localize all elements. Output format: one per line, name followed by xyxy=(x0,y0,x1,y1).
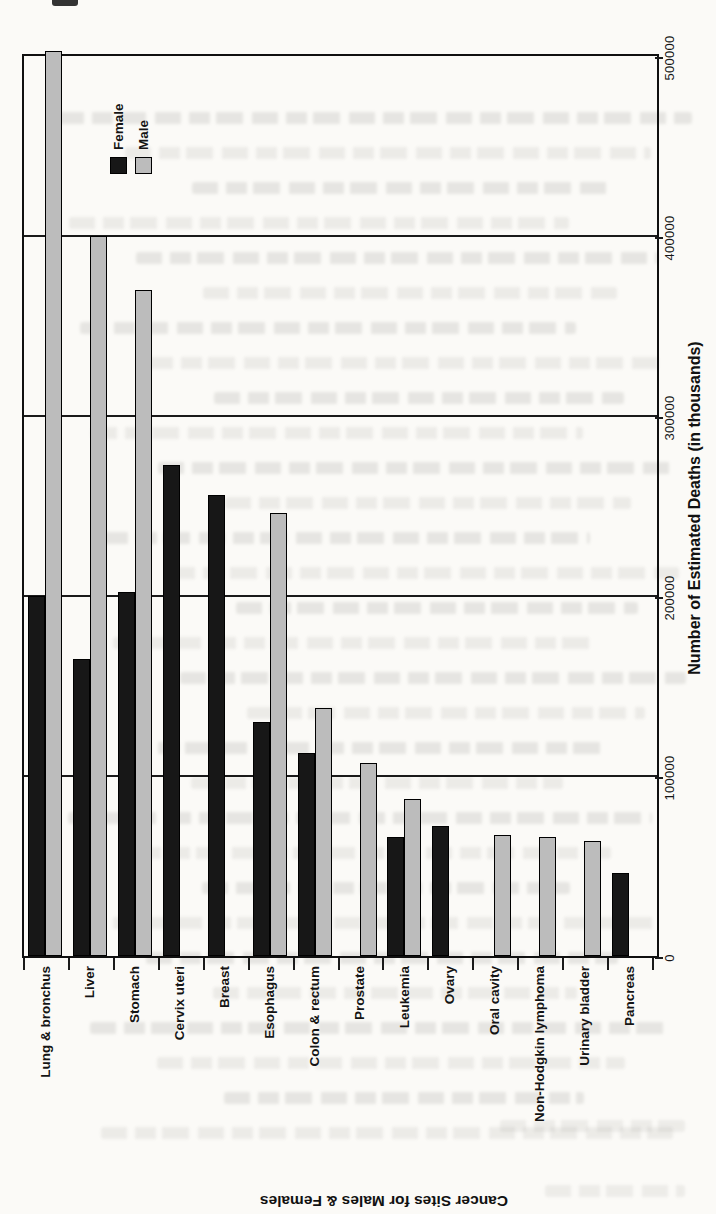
value-tick-label-200000: 200000 xyxy=(662,556,677,640)
category-label-oral-cavity: Oral cavity xyxy=(487,966,502,1142)
category-label-pancreas: Pancreas xyxy=(622,966,637,1142)
category-label-ovary: Ovary xyxy=(442,966,457,1142)
legend-item-male: Male xyxy=(135,103,152,174)
bar-non-hodgkin-lymphoma-male xyxy=(539,837,556,956)
category-label-urinary-bladder: Urinary bladder xyxy=(577,966,592,1142)
category-tick xyxy=(293,958,295,970)
bar-liver-male xyxy=(90,236,107,956)
value-tick-label-100000: 100000 xyxy=(662,736,677,820)
bar-urinary-bladder-male xyxy=(584,841,601,956)
male-swatch-icon xyxy=(135,157,152,174)
category-tick xyxy=(562,958,564,970)
legend-label-male: Male xyxy=(135,120,152,150)
legend-item-female: Female xyxy=(110,103,127,174)
bar-leukemia-female xyxy=(387,837,404,956)
legend-label-female: Female xyxy=(110,103,127,150)
rotated-chart-figure: 0100000200000300000400000500000 Lung & b… xyxy=(0,0,716,1214)
category-tick xyxy=(382,958,384,970)
bar-cervix-uteri-female xyxy=(163,465,180,956)
category-label-esophagus: Esophagus xyxy=(262,966,277,1142)
category-label-breast: Breast xyxy=(217,966,232,1142)
bar-breast-female xyxy=(208,495,225,956)
category-tick xyxy=(472,958,474,970)
bar-esophagus-male xyxy=(270,513,287,956)
gridline-300000 xyxy=(24,415,657,417)
female-swatch-icon xyxy=(110,157,127,174)
value-tick-label-0: 0 xyxy=(662,916,677,1000)
bar-colon-rectum-male xyxy=(315,708,332,956)
value-tick-label-300000: 300000 xyxy=(662,376,677,460)
category-tick xyxy=(517,958,519,970)
category-tick xyxy=(68,958,70,970)
scan-artifact-mark xyxy=(52,0,78,6)
category-tick xyxy=(427,958,429,970)
category-axis-title: Cancer Sites for Males & Females xyxy=(260,1192,508,1210)
bar-colon-rectum-female xyxy=(298,753,315,956)
category-label-colon-rectum: Colon & rectum xyxy=(307,966,322,1142)
category-label-leukemia: Leukemia xyxy=(397,966,412,1142)
bar-stomach-male xyxy=(135,290,152,956)
category-tick xyxy=(607,958,609,970)
legend: Female Male xyxy=(110,103,160,174)
category-tick xyxy=(248,958,250,970)
category-label-prostate: Prostate xyxy=(352,966,367,1142)
category-tick xyxy=(113,958,115,970)
bar-leukemia-male xyxy=(404,799,421,956)
plot-area xyxy=(22,54,659,958)
value-tick-label-500000: 500000 xyxy=(662,16,677,100)
bar-prostate-male xyxy=(360,763,377,956)
scanned-book-page: 0100000200000300000400000500000 Lung & b… xyxy=(0,0,716,1214)
bar-liver-female xyxy=(73,659,90,956)
category-label-liver: Liver xyxy=(82,966,97,1142)
category-tick xyxy=(203,958,205,970)
bar-lung-bronchus-male xyxy=(45,51,62,956)
bar-stomach-female xyxy=(118,592,135,956)
bar-pancreas-female xyxy=(612,873,629,956)
bar-esophagus-female xyxy=(253,722,270,956)
bar-lung-bronchus-female xyxy=(28,596,45,956)
category-tick xyxy=(158,958,160,970)
category-label-cervix-uteri: Cervix uteri xyxy=(172,966,187,1142)
category-label-stomach: Stomach xyxy=(127,966,142,1142)
gridline-400000 xyxy=(24,235,657,237)
category-label-non-hodgkin-lymphoma: Non-Hodgkin lymphoma xyxy=(532,966,547,1142)
bar-ovary-female xyxy=(432,826,449,956)
category-tick xyxy=(338,958,340,970)
bar-oral-cavity-male xyxy=(494,835,511,956)
value-tick-label-400000: 400000 xyxy=(662,196,677,280)
category-tick xyxy=(23,958,25,970)
category-label-lung-bronchus: Lung & bronchus xyxy=(38,966,53,1142)
value-axis-title: Number of Estimated Deaths (in thousands… xyxy=(686,58,704,958)
category-tick xyxy=(652,958,654,970)
